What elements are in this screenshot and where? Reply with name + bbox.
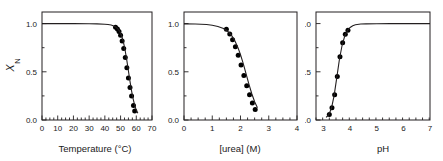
x-tick-label: 3 (267, 124, 272, 133)
x-tick-label: 3 (321, 124, 326, 133)
y-tick-label: 0.0 (168, 116, 180, 125)
x-tick-label: 6 (401, 124, 406, 133)
y-tick-labels-temperature: 0.00.51.0 (26, 20, 38, 125)
plot-frame (42, 12, 152, 120)
fit-curve (184, 24, 257, 108)
y-tick-label: 1.0 (305, 20, 312, 29)
x-tick-label: 0 (182, 124, 187, 133)
y-tick-label: 0.5 (26, 68, 38, 77)
x-tick-label: 2 (238, 124, 243, 133)
x-tick-label: 5 (375, 124, 380, 133)
plot-area-temperature (42, 12, 152, 120)
panel-urea-svg: 0.00.51.0 01234 [urea] (M) (160, 0, 305, 161)
x-tick-label: 50 (116, 124, 125, 133)
x-tick-label: 0 (40, 124, 45, 133)
plot-area-ph (316, 12, 430, 120)
y-axis-title-group: X N (4, 58, 22, 72)
x-axis-title-urea: [urea] (M) (219, 143, 260, 154)
x-tick-labels-urea: 01234 (182, 124, 300, 133)
y-tick-labels-urea: 0.00.51.0 (168, 20, 180, 125)
x-tick-label: 60 (132, 124, 141, 133)
y-tick-label: 1.0 (26, 20, 38, 29)
x-tick-label: 40 (100, 124, 109, 133)
fit-curve (42, 24, 138, 114)
x-tick-label: 4 (348, 124, 353, 133)
x-tick-labels-ph: 34567 (321, 124, 433, 133)
x-tick-label: 7 (428, 124, 433, 133)
y-tick-label: 0.5 (305, 68, 312, 77)
y-tick-label: 1.0 (168, 20, 180, 29)
y-tick-label: 0.0 (305, 116, 312, 125)
panel-ph-svg: 0.00.51.0 34567 pH (305, 0, 443, 161)
x-tick-label: 4 (295, 124, 300, 133)
plot-area-urea (184, 12, 297, 120)
denaturation-figure: X N 0.00.51.0 010203040506070 Temperatur… (0, 0, 443, 161)
panel-temperature: X N 0.00.51.0 010203040506070 Temperatur… (0, 0, 160, 161)
y-tick-label: 0.0 (26, 116, 38, 125)
y-tick-labels-ph: 0.00.51.0 (305, 20, 312, 125)
y-axis-title-subscript: N (13, 58, 22, 63)
panel-temperature-svg: X N 0.00.51.0 010203040506070 Temperatur… (0, 0, 160, 161)
x-tick-label: 10 (53, 124, 62, 133)
x-axis-title-temperature: Temperature (°C) (59, 143, 132, 154)
x-tick-labels-temperature: 010203040506070 (40, 124, 157, 133)
plot-frame (316, 12, 430, 120)
panel-ph: 0.00.51.0 34567 pH (305, 0, 443, 161)
x-tick-label: 30 (85, 124, 94, 133)
x-axis-title-ph: pH (377, 143, 389, 154)
y-axis-title: X (4, 64, 16, 73)
panel-urea: 0.00.51.0 01234 [urea] (M) (160, 0, 305, 161)
x-tick-label: 70 (148, 124, 157, 133)
x-tick-label: 20 (69, 124, 78, 133)
y-tick-label: 0.5 (168, 68, 180, 77)
fit-curve (326, 24, 430, 118)
x-tick-label: 1 (210, 124, 215, 133)
